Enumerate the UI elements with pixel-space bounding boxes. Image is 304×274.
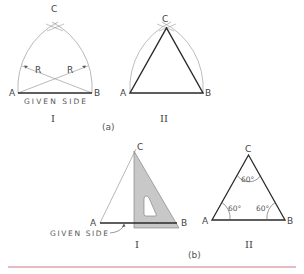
- part-b-caption: (b): [188, 250, 201, 260]
- vertex-label-a: A: [9, 88, 16, 98]
- arrowhead-icon: [122, 224, 126, 228]
- radius-line-right: [22, 66, 92, 93]
- figure-numeral: I: [135, 239, 139, 250]
- vertex-label-b: B: [94, 88, 100, 98]
- vertex-label-c: C: [245, 144, 251, 154]
- equilateral-triangle: [212, 155, 285, 220]
- equilateral-triangle-diagram: C A B R R GIVEN SIDE I C A B II (a) C A …: [0, 0, 304, 274]
- figure-numeral: I: [51, 113, 55, 124]
- set-square: [134, 151, 179, 228]
- radius-label-left: R: [35, 65, 41, 75]
- angle-label-left: 60°: [228, 204, 242, 213]
- construction-arc-from-a: [52, 22, 92, 93]
- angle-label-right: 60°: [256, 204, 270, 213]
- vertex-label-c: C: [51, 4, 57, 14]
- part-a-caption: (a): [102, 122, 115, 132]
- leader-arrow: [110, 225, 124, 233]
- vertex-label-c: C: [162, 14, 168, 24]
- figure-numeral: II: [245, 239, 253, 250]
- radius-label-right: R: [67, 65, 73, 75]
- vertex-label-a: A: [90, 218, 97, 228]
- radius-line-left: [18, 66, 88, 93]
- angle-label-top: 60°: [241, 175, 255, 184]
- vertex-label-a: A: [120, 88, 127, 98]
- vertex-label-c: C: [137, 142, 143, 152]
- equilateral-triangle: [130, 28, 203, 93]
- vertex-label-b: B: [205, 88, 211, 98]
- vertex-label-b: B: [181, 218, 187, 228]
- part-a-figure-1: C A B R R GIVEN SIDE I: [9, 4, 100, 124]
- figure-numeral: II: [160, 113, 168, 124]
- construction-arc-from-b: [18, 22, 58, 93]
- construction-line-ac: [100, 149, 136, 223]
- vertex-label-a: A: [202, 216, 209, 226]
- given-side-label: GIVEN SIDE: [50, 229, 108, 238]
- part-a-figure-2: C A B II: [120, 14, 211, 124]
- part-b-figure-2: 60° 60° 60° C A B II: [202, 144, 293, 250]
- given-side-label: GIVEN SIDE: [24, 97, 86, 106]
- part-b-figure-1: C A B GIVEN SIDE I: [50, 142, 187, 250]
- vertex-label-b: B: [287, 216, 293, 226]
